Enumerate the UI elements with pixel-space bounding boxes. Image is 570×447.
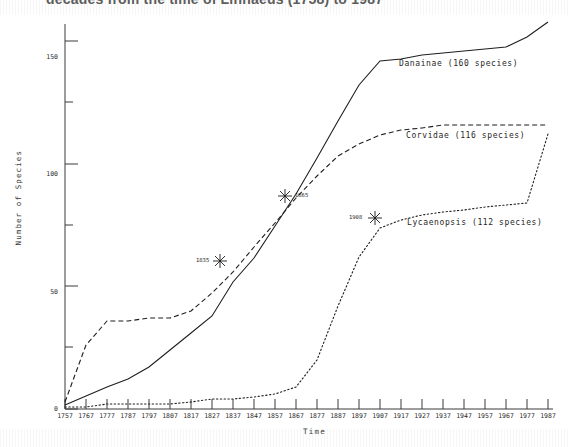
x-axis-title: Time	[303, 427, 326, 436]
x-axis-tick-label: 1987	[534, 412, 562, 420]
series-label-lycaenopsis: Lycaenopsis (112 species)	[407, 218, 542, 227]
y-axis-tick-label: 100	[30, 170, 58, 178]
annotation-label-1908: 1908	[349, 214, 362, 220]
annotation-marker-1865	[278, 189, 292, 203]
axis-lines	[65, 24, 553, 409]
annotation-label-1835: 1835	[196, 257, 209, 263]
annotation-marker-1835	[213, 254, 227, 268]
series-line-corvidae	[65, 125, 548, 402]
series-label-danainae: Danainae (160 species)	[399, 59, 518, 68]
y-axis-minor-ticks	[65, 102, 73, 347]
annotation-marker-1908	[368, 211, 382, 225]
y-axis-tick-label: 50	[30, 288, 58, 296]
series-line-danainae	[65, 22, 548, 405]
annotation-label-1865: 1865	[295, 192, 308, 198]
series-label-corvidae: Corvidae (116 species)	[406, 131, 525, 140]
y-axis-tick-label: 150	[30, 53, 58, 61]
y-axis-title: Number of Species	[14, 150, 23, 245]
